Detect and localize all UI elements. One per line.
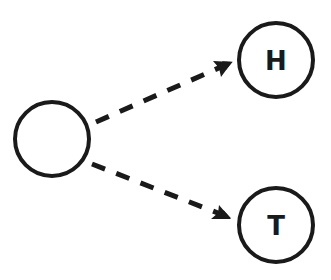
edge-root-to-tails-arrow-icon [92, 164, 228, 217]
heads-node-label: H [265, 46, 287, 76]
tails-node-label: T [267, 211, 285, 241]
diagram-canvas: H T [0, 0, 331, 280]
heads-node: H [239, 23, 313, 97]
root-node [15, 102, 89, 176]
edge-root-to-heads-arrow-icon [96, 63, 230, 122]
tails-node: T [239, 188, 313, 262]
